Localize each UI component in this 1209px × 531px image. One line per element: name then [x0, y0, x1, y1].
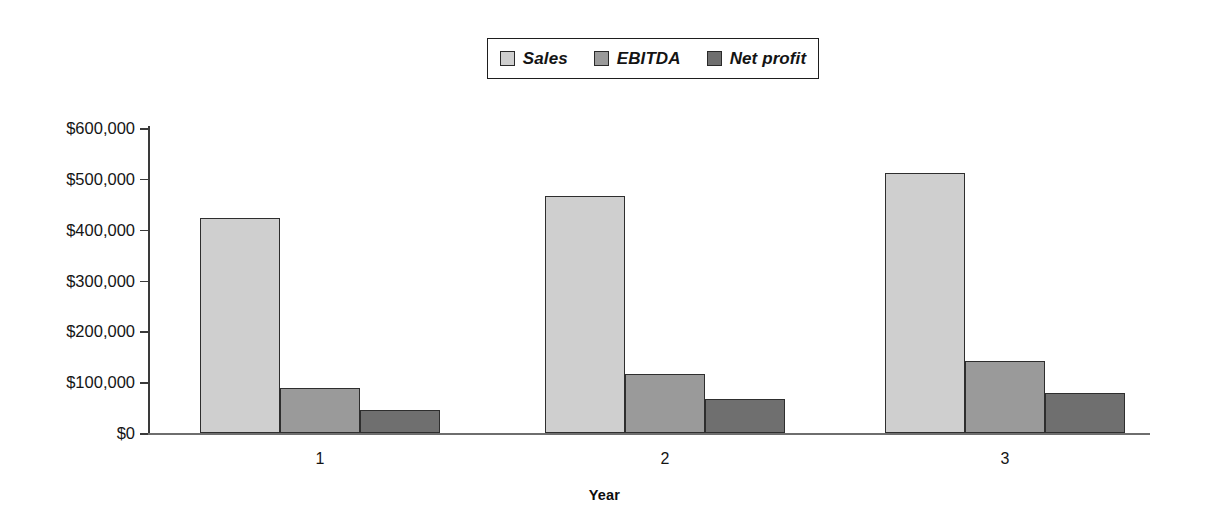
y-axis-tick: [140, 331, 148, 333]
bar-chart: Sales EBITDA Net profit $0$100,000$200,0…: [0, 0, 1209, 531]
legend-swatch-net-profit-icon: [707, 51, 722, 66]
x-axis-label-1: 1: [316, 450, 325, 468]
bar-group: [885, 173, 1125, 433]
y-axis-tick: [140, 433, 148, 435]
bar-sales-1: [200, 218, 280, 433]
legend-swatch-sales-icon: [500, 51, 515, 66]
bar-sales-3: [885, 173, 965, 433]
y-axis-tick-label: $600,000: [66, 119, 135, 138]
bar-ebitda-2: [625, 374, 705, 433]
bar-group: [545, 196, 785, 433]
y-axis-tick-label: $0: [117, 424, 135, 443]
y-axis-tick: [140, 128, 148, 130]
bar-ebitda-3: [965, 361, 1045, 433]
y-axis-tick-label: $500,000: [66, 169, 135, 188]
plot-area: $0$100,000$200,000$300,000$400,000$500,0…: [148, 128, 1150, 433]
bar-sales-2: [545, 196, 625, 433]
y-axis-tick-label: $300,000: [66, 271, 135, 290]
y-axis-tick: [140, 281, 148, 283]
x-axis-line: [148, 433, 1150, 435]
bar-net-profit-2: [705, 399, 785, 433]
y-axis-tick-label: $400,000: [66, 220, 135, 239]
legend-swatch-ebitda-icon: [594, 51, 609, 66]
x-axis-title: Year: [0, 487, 1209, 503]
legend-item-net-profit: Net profit: [707, 49, 807, 69]
y-axis-tick: [140, 179, 148, 181]
x-axis-label-2: 2: [661, 450, 670, 468]
legend-item-ebitda: EBITDA: [594, 49, 681, 69]
y-axis-tick-label: $200,000: [66, 322, 135, 341]
y-axis-tick-label: $100,000: [66, 373, 135, 392]
legend-label-sales: Sales: [523, 49, 568, 69]
legend-label-net-profit: Net profit: [730, 49, 807, 69]
y-axis-tick: [140, 230, 148, 232]
bar-ebitda-1: [280, 388, 360, 433]
bar-net-profit-1: [360, 410, 440, 433]
y-axis-tick: [140, 382, 148, 384]
bar-net-profit-3: [1045, 393, 1125, 433]
legend-item-sales: Sales: [500, 49, 568, 69]
legend-label-ebitda: EBITDA: [617, 49, 681, 69]
chart-legend: Sales EBITDA Net profit: [487, 38, 819, 79]
y-axis-line: [148, 126, 150, 433]
bar-group: [200, 218, 440, 433]
x-axis-label-3: 3: [1001, 450, 1010, 468]
